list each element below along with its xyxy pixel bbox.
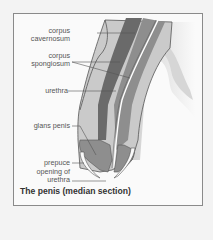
label-line: urethra [36,176,70,184]
label-line: urethra [45,87,68,95]
label-line: prepuce [44,159,70,167]
label-line: spongiosum [31,60,70,68]
label-corpus-spongiosum: corpus spongiosum [31,52,70,68]
label-urethra: urethra [45,87,68,95]
label-line: cavernosum [31,35,70,43]
label-opening-of-urethra: opening of urethra [36,168,70,184]
label-prepuce: prepuce [44,159,70,167]
label-corpus-cavernosum: corpus cavernosum [31,27,70,43]
label-line: glans penis [34,122,70,130]
label-glans-penis: glans penis [34,122,70,130]
figure-caption: The penis (median section) [20,186,131,196]
